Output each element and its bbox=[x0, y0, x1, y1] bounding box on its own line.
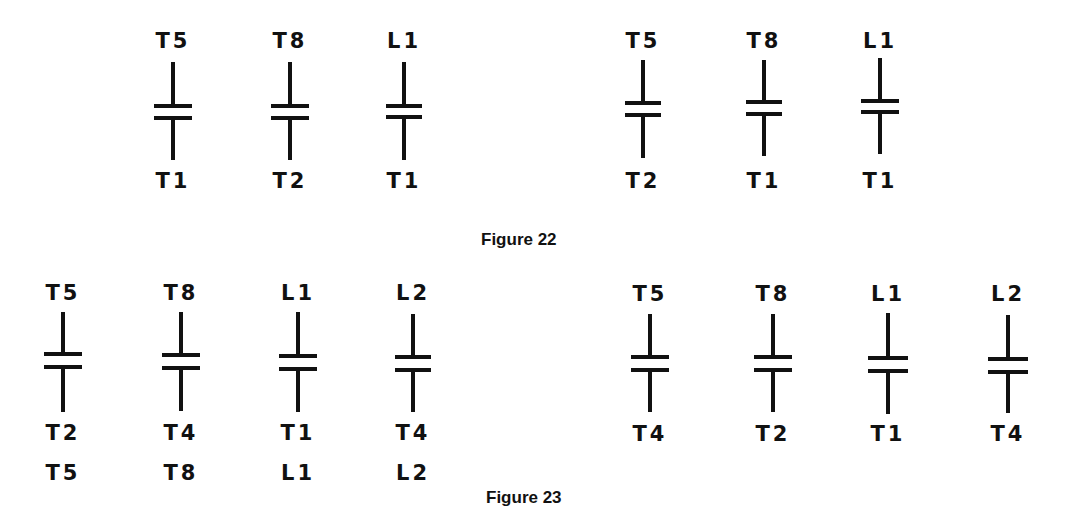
terminal-label-bottom: T2 bbox=[260, 170, 320, 192]
contact-icon bbox=[143, 54, 203, 164]
terminal-label-top: T8 bbox=[743, 283, 803, 305]
terminal-label-top: T5 bbox=[620, 283, 680, 305]
terminal-label-top: T5 bbox=[143, 30, 203, 52]
contact-symbol: L2 T4 bbox=[978, 283, 1038, 473]
terminal-label-top: T8 bbox=[260, 30, 320, 52]
terminal-label-bottom: T1 bbox=[268, 422, 328, 444]
terminal-label-top: L2 bbox=[383, 282, 443, 304]
contact-symbol: L1 T1 bbox=[374, 30, 434, 220]
terminal-label-top: T8 bbox=[151, 282, 211, 304]
terminal-label-extra: L2 bbox=[383, 462, 443, 484]
terminal-label-bottom: T1 bbox=[374, 170, 434, 192]
contact-icon bbox=[613, 54, 673, 164]
contact-icon bbox=[151, 306, 211, 416]
terminal-label-top: L1 bbox=[858, 283, 918, 305]
terminal-label-bottom: T4 bbox=[620, 423, 680, 445]
terminal-label-top: T8 bbox=[734, 30, 794, 52]
contact-icon bbox=[858, 307, 918, 417]
terminal-label-bottom: T4 bbox=[383, 422, 443, 444]
terminal-label-top: L1 bbox=[374, 30, 434, 52]
contact-icon bbox=[734, 54, 794, 164]
terminal-label-bottom: T1 bbox=[734, 170, 794, 192]
contact-icon bbox=[743, 307, 803, 417]
contact-symbol: T5 T2 bbox=[613, 30, 673, 220]
contact-icon bbox=[260, 54, 320, 164]
terminal-label-top: T5 bbox=[33, 282, 93, 304]
contact-icon bbox=[620, 307, 680, 417]
terminal-label-bottom: T1 bbox=[143, 170, 203, 192]
contact-symbol: T8 T4 T8 bbox=[151, 282, 211, 472]
terminal-label-bottom: T2 bbox=[33, 422, 93, 444]
terminal-label-bottom: T2 bbox=[743, 423, 803, 445]
contact-symbol: L1 T1 L1 bbox=[268, 282, 328, 472]
contact-icon bbox=[33, 306, 93, 416]
contact-symbol: L1 T1 bbox=[858, 283, 918, 473]
terminal-label-bottom: T4 bbox=[151, 422, 211, 444]
terminal-label-top: T5 bbox=[613, 30, 673, 52]
terminal-label-bottom: T1 bbox=[858, 423, 918, 445]
terminal-label-bottom: T2 bbox=[613, 170, 673, 192]
contact-symbol: T5 T1 bbox=[143, 30, 203, 220]
contact-icon bbox=[978, 307, 1038, 417]
terminal-label-extra: T5 bbox=[33, 462, 93, 484]
contact-symbol: L2 T4 L2 bbox=[383, 282, 443, 472]
contact-icon bbox=[374, 54, 434, 164]
contact-symbol: T8 T2 bbox=[743, 283, 803, 473]
contact-symbol: L1 T1 bbox=[850, 30, 910, 220]
terminal-label-bottom: T1 bbox=[850, 170, 910, 192]
terminal-label-bottom: T4 bbox=[978, 423, 1038, 445]
contact-symbol: T8 T1 bbox=[734, 30, 794, 220]
contact-symbol: T8 T2 bbox=[260, 30, 320, 220]
terminal-label-top: L2 bbox=[978, 283, 1038, 305]
terminal-label-extra: T8 bbox=[151, 462, 211, 484]
figure-caption: Figure 22 bbox=[481, 230, 557, 250]
contact-icon bbox=[383, 306, 443, 416]
terminal-label-top: L1 bbox=[850, 30, 910, 52]
contact-icon bbox=[850, 54, 910, 164]
figure-caption: Figure 23 bbox=[486, 488, 562, 508]
contact-symbol: T5 T2 T5 bbox=[33, 282, 93, 472]
terminal-label-extra: L1 bbox=[268, 462, 328, 484]
contact-symbol: T5 T4 bbox=[620, 283, 680, 473]
terminal-label-top: L1 bbox=[268, 282, 328, 304]
contact-icon bbox=[268, 306, 328, 416]
